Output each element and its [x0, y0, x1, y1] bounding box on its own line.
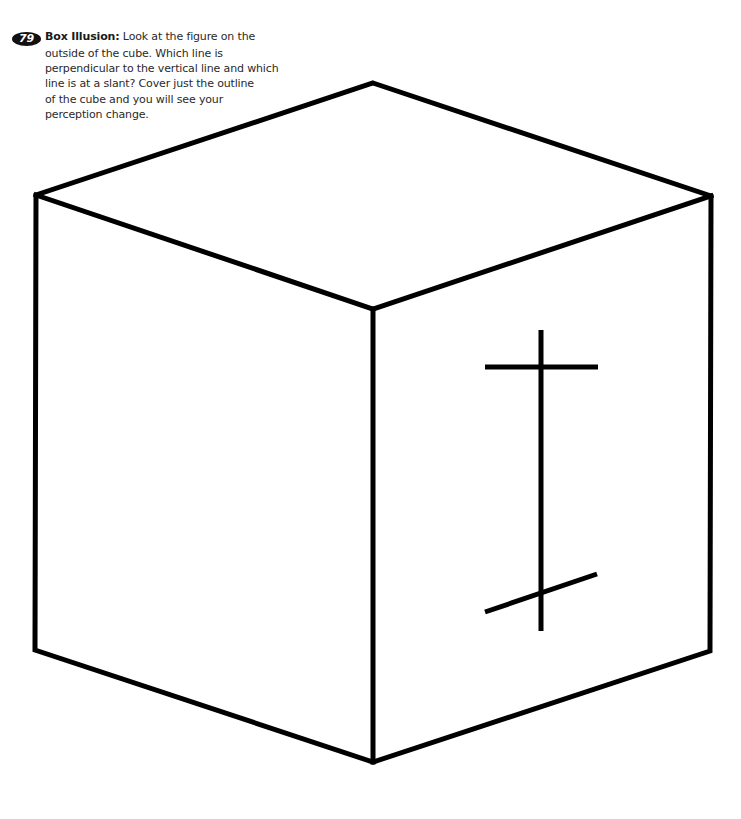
cube-outline — [35, 83, 711, 762]
cube-top-front-edges — [36, 195, 711, 309]
box-illusion-figure — [0, 0, 741, 819]
illusion-mark — [485, 330, 598, 631]
